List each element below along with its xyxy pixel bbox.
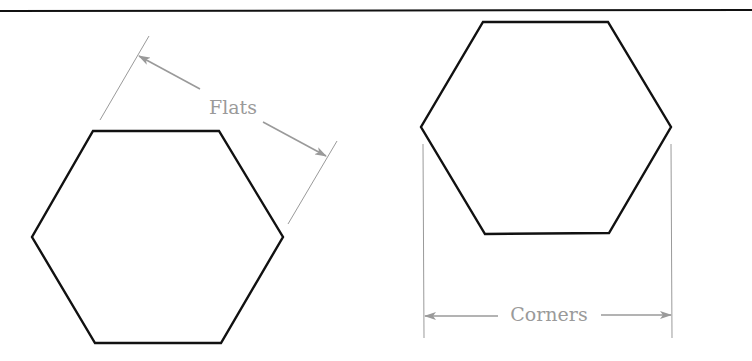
- flats-hexagon: [32, 131, 283, 343]
- flats-label: Flats: [209, 96, 257, 118]
- top-rule: [0, 10, 752, 11]
- flats-extension-line-left: [100, 36, 149, 120]
- corners-label: Corners: [510, 303, 587, 325]
- corners-figure: Corners: [421, 22, 672, 338]
- corners-extension-line-left: [423, 144, 424, 338]
- corners-extension-line-right: [671, 144, 672, 338]
- flats-extension-line-right: [288, 141, 337, 224]
- flats-arrow-left: [139, 56, 200, 89]
- flats-figure: Flats: [32, 36, 337, 343]
- corners-hexagon: [421, 22, 671, 234]
- hexagon-dimension-diagram: Flats Corners: [0, 0, 752, 361]
- flats-arrow-right: [263, 122, 326, 156]
